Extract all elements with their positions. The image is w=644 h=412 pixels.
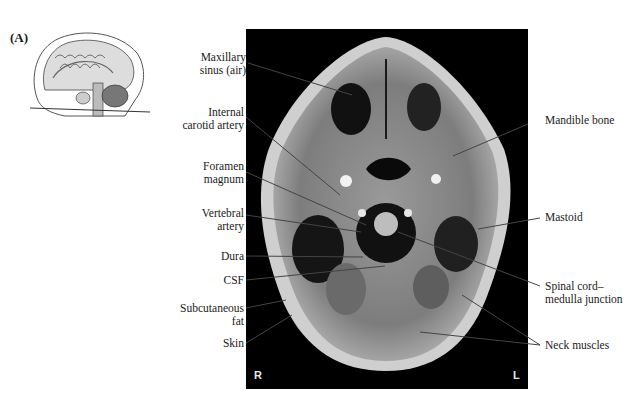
label-internal-carotid-artery: Internal carotid artery bbox=[182, 106, 244, 132]
label-vertebral-artery: Vertebral artery bbox=[202, 207, 244, 233]
label-spinal-cord-medulla-junction: Spinal cord– medulla junction bbox=[545, 280, 623, 306]
sagittal-brain-inset-icon bbox=[25, 28, 150, 123]
label-maxillary-sinus: Maxillary sinus (air) bbox=[200, 51, 246, 77]
orientation-left-marker: L bbox=[513, 369, 520, 381]
orientation-right-marker: R bbox=[254, 369, 262, 381]
label-foramen-magnum: Foramen magnum bbox=[203, 160, 244, 186]
label-mandible-bone: Mandible bone bbox=[545, 114, 614, 127]
label-dura: Dura bbox=[221, 250, 244, 263]
label-skin: Skin bbox=[223, 337, 244, 350]
label-csf: CSF bbox=[224, 274, 244, 287]
label-mastoid: Mastoid bbox=[545, 211, 583, 224]
label-neck-muscles: Neck muscles bbox=[545, 339, 609, 352]
label-subcutaneous-fat: Subcutaneous fat bbox=[180, 302, 244, 328]
axial-mri-image: R L bbox=[246, 29, 528, 389]
